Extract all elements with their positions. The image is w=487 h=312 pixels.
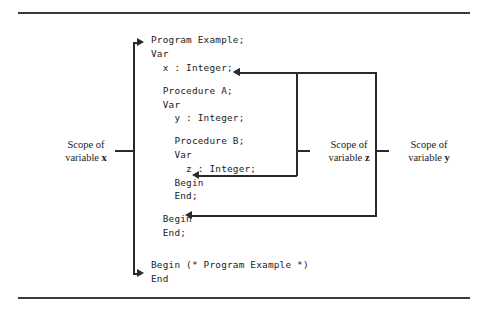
code-line: Begin (* Program Example *) xyxy=(151,258,309,272)
scope-x-label: Scope of variable x xyxy=(44,138,128,164)
scope-x-label-line2-prefix: variable xyxy=(65,152,101,163)
scope-z-bracket-vertical xyxy=(296,72,298,176)
scope-x-bottom-arrowhead xyxy=(137,269,144,277)
scope-z-label-line1: Scope of xyxy=(330,139,367,150)
scope-x-label-line1: Scope of xyxy=(67,139,104,150)
scope-y-bracket-vertical xyxy=(375,72,377,216)
scope-z-label-tick xyxy=(297,150,310,152)
scope-z-bracket-bottom-arm xyxy=(199,175,297,177)
scope-z-label-variable: z xyxy=(365,152,370,163)
figure-canvas: Program Example;Var x : Integer; Procedu… xyxy=(0,0,487,312)
scope-y-label-variable: y xyxy=(445,152,450,163)
scope-y-bottom-arrowhead xyxy=(185,211,192,219)
scope-y-label-line2-prefix: variable xyxy=(408,152,444,163)
code-line: y : Integer; xyxy=(151,111,309,125)
code-blank-line xyxy=(151,249,309,258)
code-line: z : Integer; xyxy=(151,162,309,176)
code-line: Procedure A; xyxy=(151,84,309,98)
bottom-horizontal-rule xyxy=(18,297,470,299)
scope-x-bracket-vertical xyxy=(133,42,135,274)
scope-y-label-line1: Scope of xyxy=(410,139,447,150)
code-line: End; xyxy=(151,226,309,240)
scope-y-bracket-bottom-arm xyxy=(192,215,377,217)
code-line: Var xyxy=(151,47,309,61)
code-line: Begin xyxy=(151,176,309,190)
code-blank-line xyxy=(151,75,309,84)
code-line: End; xyxy=(151,189,309,203)
scope-y-label: Scope of variable y xyxy=(392,138,466,164)
code-line: Program Example; xyxy=(151,33,309,47)
scope-z-label-line2-prefix: variable xyxy=(328,152,364,163)
code-blank-line xyxy=(151,240,309,249)
code-line: Var xyxy=(151,98,309,112)
scope-y-bracket-top-arm xyxy=(240,72,376,74)
scope-x-top-arrowhead xyxy=(137,38,144,46)
scope-y-label-tick xyxy=(376,150,389,152)
scope-y-top-arrowhead xyxy=(233,68,240,76)
code-line: Var xyxy=(151,148,309,162)
code-blank-line xyxy=(151,125,309,134)
code-blank-line xyxy=(151,203,309,212)
code-line: Procedure B; xyxy=(151,134,309,148)
scope-x-label-variable: x xyxy=(102,152,107,163)
top-horizontal-rule xyxy=(18,12,470,14)
code-line: End xyxy=(151,272,309,286)
scope-z-bottom-arrowhead xyxy=(192,171,199,179)
